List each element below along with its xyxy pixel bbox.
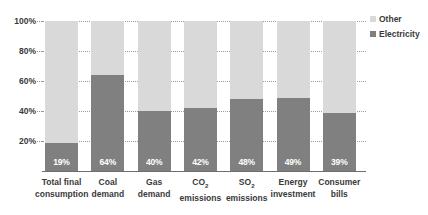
bar-segment-electricity[interactable]: 64% xyxy=(91,75,124,171)
legend-label: Other xyxy=(379,14,402,24)
x-axis-category-label: Energyinvestment xyxy=(267,176,320,200)
bar-group[interactable]: 42% xyxy=(184,21,217,171)
bar-segment-electricity[interactable]: 19% xyxy=(45,143,78,172)
x-axis-category-line-1: SO2 xyxy=(239,177,255,187)
x-axis-category-line-1: CO2 xyxy=(192,177,208,187)
bar-segment-other[interactable] xyxy=(277,21,310,98)
x-axis-category-line-2: consumption xyxy=(35,188,88,200)
bar-segment-other[interactable] xyxy=(184,21,217,108)
y-axis-tick-label: 40% xyxy=(0,106,36,116)
plot-area: 100%80%60%40%20% 19%64%40%42%48%49%39% xyxy=(42,21,366,171)
bar-segment-other[interactable] xyxy=(323,21,356,113)
x-axis-category-label: Coaldemand xyxy=(81,176,134,200)
y-axis-tick-label: 20% xyxy=(0,136,36,146)
y-axis-tick-label: 60% xyxy=(0,76,36,86)
x-axis-category-label: Total finalconsumption xyxy=(35,176,88,200)
legend-swatch-icon xyxy=(370,16,376,22)
bar-group[interactable]: 49% xyxy=(277,21,310,171)
bar-segment-electricity[interactable]: 40% xyxy=(138,111,171,171)
x-axis-category-line-1: Gas xyxy=(146,177,162,187)
x-axis-category-line-1: Total final xyxy=(42,177,82,187)
x-axis-category-line-1: Coal xyxy=(99,177,117,187)
bar-group[interactable]: 19% xyxy=(45,21,78,171)
bar-segment-other[interactable] xyxy=(138,21,171,111)
bar-data-label: 48% xyxy=(230,157,263,167)
bar-data-label: 40% xyxy=(138,157,171,167)
bar-segment-electricity[interactable]: 42% xyxy=(184,108,217,171)
bar-group[interactable]: 39% xyxy=(323,21,356,171)
x-axis-category-label: CO2emissions xyxy=(174,176,227,204)
bar-group[interactable]: 48% xyxy=(230,21,263,171)
bar-segment-other[interactable] xyxy=(45,21,78,143)
x-axis-category-line-1: Consumer xyxy=(318,177,360,187)
subscript-two: 2 xyxy=(251,182,254,189)
chart-legend: OtherElectricity xyxy=(370,14,428,44)
bar-group[interactable]: 64% xyxy=(91,21,124,171)
x-axis-category-label: Consumerbills xyxy=(313,176,366,200)
x-axis-category-line-2: demand xyxy=(128,188,181,200)
bar-segment-electricity[interactable]: 49% xyxy=(277,98,310,172)
legend-label: Electricity xyxy=(379,29,420,39)
x-axis-category-line-2: investment xyxy=(267,188,320,200)
bar-data-label: 19% xyxy=(45,157,78,167)
x-axis-category-line-2: bills xyxy=(313,188,366,200)
x-axis-category-line-2: emissions xyxy=(174,192,227,204)
bar-data-label: 39% xyxy=(323,157,356,167)
x-axis-line xyxy=(42,171,366,172)
bar-data-label: 42% xyxy=(184,157,217,167)
x-axis-category-line-2: emissions xyxy=(220,192,273,204)
bar-segment-other[interactable] xyxy=(230,21,263,99)
legend-item[interactable]: Electricity xyxy=(370,29,428,39)
bar-segment-electricity[interactable]: 39% xyxy=(323,113,356,172)
bar-data-label: 64% xyxy=(91,157,124,167)
x-axis-category-label: Gasdemand xyxy=(128,176,181,200)
bar-data-label: 49% xyxy=(277,157,310,167)
x-axis-category-line-2: demand xyxy=(81,188,134,200)
legend-swatch-icon xyxy=(370,31,376,37)
x-axis-category-label: SO2emissions xyxy=(220,176,273,204)
legend-item[interactable]: Other xyxy=(370,14,428,24)
stacked-bar-chart: 100%80%60%40%20% 19%64%40%42%48%49%39% T… xyxy=(0,0,428,215)
bar-segment-other[interactable] xyxy=(91,21,124,75)
y-axis-tick-label: 80% xyxy=(0,46,36,56)
x-axis-category-line-1: Energy xyxy=(279,177,308,187)
y-axis-tick-label: 100% xyxy=(0,16,36,26)
bar-series-layer: 19%64%40%42%48%49%39% xyxy=(42,21,366,171)
subscript-two: 2 xyxy=(205,182,208,189)
bar-segment-electricity[interactable]: 48% xyxy=(230,99,263,171)
x-axis-label-layer: Total finalconsumptionCoaldemandGasdeman… xyxy=(42,176,366,212)
bar-group[interactable]: 40% xyxy=(138,21,171,171)
